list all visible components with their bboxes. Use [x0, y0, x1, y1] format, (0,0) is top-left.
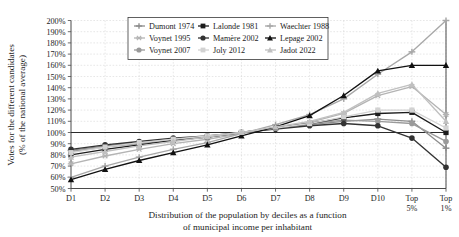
ytick-labels: 50%60%70%80%90%100%110%120%130%140%150%1…: [46, 17, 65, 194]
data-point-square: [375, 108, 380, 113]
x-tick-label: D3: [134, 194, 144, 203]
legend-label: Lepage 2002: [280, 34, 323, 43]
data-point-square: [443, 130, 448, 135]
data-point-square: [201, 48, 206, 53]
chart-root: 50%60%70%80%90%100%110%120%130%140%150%1…: [0, 0, 459, 237]
y-tick-label: 160%: [46, 61, 65, 70]
x-axis-title-line1: Distribution of the population by decile…: [148, 210, 346, 220]
data-point-square: [341, 114, 346, 119]
series-voynet-1995: [68, 84, 449, 166]
data-point-circle: [443, 164, 449, 170]
y-tick-label: 80%: [50, 151, 65, 160]
data-point-circle: [409, 135, 415, 141]
x-tick-label: 5%: [406, 204, 417, 213]
data-point-circle: [409, 121, 415, 127]
y-tick-label: 130%: [46, 95, 65, 104]
x-tick-label: Top: [440, 194, 453, 203]
data-point-square: [443, 125, 448, 130]
series-lalonde-1981: [68, 110, 448, 158]
votes-by-income-decile-line-chart: 50%60%70%80%90%100%110%120%130%140%150%1…: [0, 0, 459, 237]
x-tick-label: 1%: [441, 204, 452, 213]
legend-label: Joly 2012: [213, 46, 245, 55]
data-point-circle: [341, 121, 347, 127]
x-tick-label: Top: [406, 194, 419, 203]
y-tick-label: 170%: [46, 50, 65, 59]
y-tick-label: 140%: [46, 84, 65, 93]
x-tick-label: D8: [305, 194, 315, 203]
x-tick-label: D2: [100, 194, 110, 203]
x-tick-label: D6: [236, 194, 246, 203]
legend-label: Waechter 1988: [280, 22, 329, 31]
y-tick-label: 190%: [46, 28, 65, 37]
data-point-circle: [375, 123, 381, 129]
data-point-circle: [443, 139, 449, 145]
legend-label: Mamère 2002: [213, 34, 259, 43]
y-tick-label: 180%: [46, 39, 65, 48]
y-axis-title-line2: (% of the national average): [17, 55, 27, 155]
series-line: [71, 87, 446, 164]
y-tick-label: 120%: [46, 106, 65, 115]
legend-label: Voynet 1995: [149, 34, 190, 43]
y-tick-label: 60%: [50, 173, 65, 182]
data-point-circle: [200, 35, 205, 40]
x-axis-title-line2: of municipal income per inhabitant: [183, 222, 313, 232]
y-tick-label: 50%: [50, 185, 65, 194]
x-tick-label: D4: [168, 194, 178, 203]
legend: Dumont 1974Voynet 1995Voynet 2007Lalonde…: [128, 18, 329, 60]
x-tick-label: D7: [271, 194, 281, 203]
y-tick-label: 100%: [46, 129, 65, 138]
data-point-circle: [136, 47, 141, 52]
y-tick-label: 110%: [47, 117, 66, 126]
legend-label: Dumont 1974: [149, 22, 194, 31]
legend-label: Jadot 2022: [280, 46, 316, 55]
data-point-square: [201, 24, 206, 29]
legend-label: Voynet 2007: [149, 46, 190, 55]
data-point-square: [409, 108, 414, 113]
x-tick-label: D1: [66, 194, 76, 203]
y-tick-label: 200%: [46, 17, 65, 26]
y-tick-label: 90%: [50, 140, 65, 149]
x-tick-label: D5: [202, 194, 212, 203]
x-tick-label: D10: [371, 194, 385, 203]
legend-label: Lalonde 1981: [213, 22, 258, 31]
data-point-triangle: [409, 81, 415, 87]
y-tick-label: 70%: [50, 162, 65, 171]
y-tick-label: 150%: [46, 73, 65, 82]
x-tick-label: D9: [339, 194, 349, 203]
y-axis-title-line1: Votes for the different candidates: [6, 44, 16, 166]
